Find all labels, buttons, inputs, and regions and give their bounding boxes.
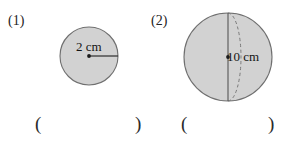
problem-number-1: (1) [8,14,24,28]
center-dot-icon [87,54,91,58]
diameter-measure-label: 10 cm [227,50,259,63]
problem-number-2: (2) [151,14,167,28]
answer-blank-1[interactable] [46,119,132,137]
figure-circle-1 [56,22,124,92]
circle-diagram-svg [56,22,124,92]
answer-close-paren-2: ) [268,113,274,136]
answer-blank-2[interactable] [192,119,266,137]
answer-row-2: ( ) [143,113,286,143]
answer-row-1: ( ) [0,113,143,143]
answer-open-paren-2: ( [181,113,187,136]
radius-measure-label: 2 cm [76,40,102,53]
worksheet-page: (1) 2 cm ( ) (2) 10 cm ( ) [0,0,286,146]
answer-open-paren-1: ( [35,113,41,136]
answer-close-paren-1: ) [135,113,141,136]
